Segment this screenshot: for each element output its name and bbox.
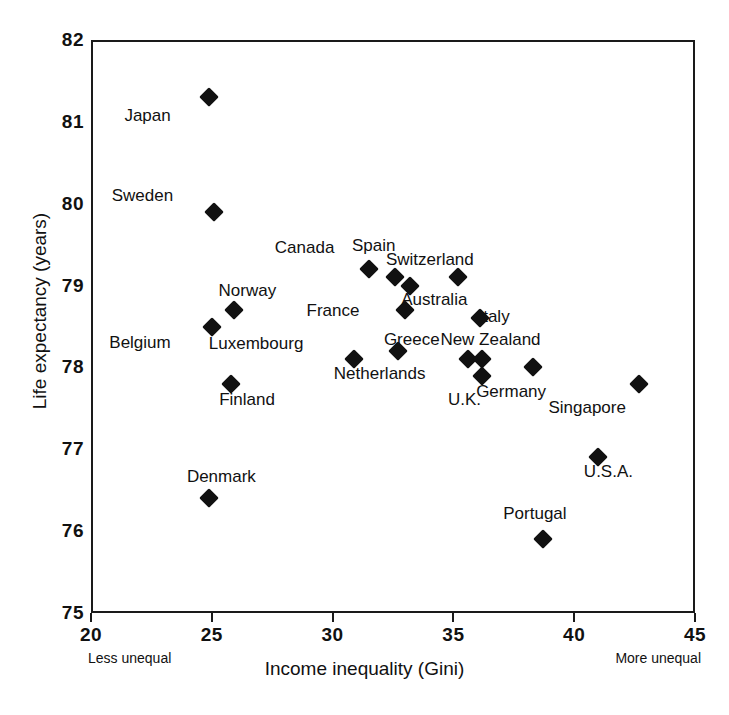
data-point-label: Belgium (109, 334, 170, 351)
plot-area-frame (91, 40, 695, 613)
x-tick-label: 30 (322, 624, 344, 646)
data-point-label: Norway (219, 282, 277, 299)
x-tick-mark (694, 613, 696, 622)
data-point-label: Netherlands (334, 365, 426, 382)
x-axis-right-note: More unequal (615, 650, 701, 666)
x-tick-label: 25 (201, 624, 223, 646)
x-tick-mark (573, 613, 575, 622)
y-tick-label: 82 (62, 29, 84, 51)
data-point-label: New Zealand (440, 331, 540, 348)
x-tick-mark (90, 613, 92, 622)
data-point-label: Portugal (503, 505, 566, 522)
data-point-label: Sweden (112, 187, 173, 204)
x-tick-mark (211, 613, 213, 622)
x-tick-label: 40 (563, 624, 585, 646)
y-tick-label: 75 (62, 602, 84, 624)
data-point-label: U.S.A. (584, 463, 633, 480)
y-tick-label: 79 (62, 275, 84, 297)
y-tick-label: 77 (62, 438, 84, 460)
y-tick-label: 76 (62, 520, 84, 542)
data-point-label: Finland (219, 391, 275, 408)
data-point-label: France (307, 302, 360, 319)
data-point-label: Japan (124, 107, 170, 124)
scatter-plot-figure: 202530354045 7576777879808182 JapanSwede… (0, 0, 729, 715)
data-point-label: Switzerland (386, 251, 474, 268)
y-tick-label: 81 (62, 111, 84, 133)
x-tick-mark (452, 613, 454, 622)
y-axis-title: Life expectancy (years) (29, 121, 51, 501)
x-axis-left-note: Less unequal (88, 650, 171, 666)
x-tick-label: 20 (80, 624, 102, 646)
data-point-label: Singapore (548, 399, 626, 416)
data-point-label: Greece (384, 331, 440, 348)
x-tick-label: 45 (684, 624, 706, 646)
data-point-label: Canada (275, 239, 335, 256)
data-point-label: Denmark (187, 468, 256, 485)
x-tick-label: 35 (442, 624, 464, 646)
y-tick-label: 78 (62, 356, 84, 378)
data-point-label: Australia (401, 291, 467, 308)
data-point-label: Germany (476, 383, 546, 400)
x-tick-mark (332, 613, 334, 622)
data-point-label: Luxembourg (209, 335, 304, 352)
data-point-label: Italy (478, 308, 509, 325)
y-tick-label: 80 (62, 193, 84, 215)
